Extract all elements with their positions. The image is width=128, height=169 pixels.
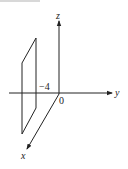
plane-intercept-label: −4 <box>39 81 50 92</box>
x-axis <box>27 94 59 149</box>
z-axis-label: z <box>55 10 60 21</box>
coordinate-diagram: z y x −4 0 <box>0 0 128 169</box>
x-axis-label: x <box>20 150 26 161</box>
plane-top-edge <box>22 38 36 63</box>
plane-y-minus-4 <box>22 38 36 134</box>
plane-bottom-edge <box>22 108 36 134</box>
origin-label: 0 <box>59 95 64 106</box>
y-axis-label: y <box>114 87 120 98</box>
